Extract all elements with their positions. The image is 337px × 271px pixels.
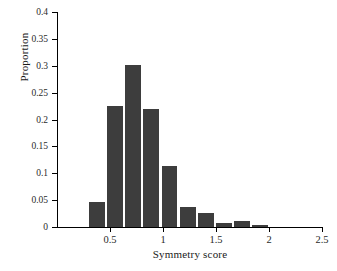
y-tick-label: 0.15: [2, 141, 48, 151]
x-tick-label: 0.5: [90, 234, 130, 246]
x-tick-label: 1.5: [196, 234, 236, 246]
x-tick-label: 2.5: [302, 234, 337, 246]
y-tick-label: 0: [2, 222, 48, 232]
histogram-bar: [198, 213, 214, 228]
histogram-bar: [107, 106, 123, 227]
histogram-bar: [89, 202, 105, 227]
y-tick-label-wrap: 0.15: [0, 141, 52, 151]
histogram-figure: 00.050.10.150.20.250.30.350.4 0.511.522.…: [0, 0, 337, 271]
histogram-bar: [180, 207, 196, 227]
y-tick-label-wrap: 0.1: [0, 168, 52, 178]
y-axis-title: Proportion: [18, 0, 30, 127]
y-tick-label-wrap: 0.05: [0, 195, 52, 205]
x-axis-title: Symmetry score: [57, 248, 323, 260]
histogram-bar: [143, 109, 159, 227]
plot-area: [57, 12, 322, 227]
bars-layer: [57, 12, 322, 227]
x-tick-label: 1: [143, 234, 183, 246]
x-axis-line: [57, 227, 323, 228]
histogram-bar: [125, 65, 141, 227]
y-tick-label: 0.05: [2, 195, 48, 205]
x-tick-label: 2: [249, 234, 289, 246]
y-axis-line: [57, 12, 58, 228]
y-tick-label-wrap: 0: [0, 222, 52, 232]
y-tick-label: 0.1: [2, 168, 48, 178]
histogram-bar: [162, 166, 178, 227]
